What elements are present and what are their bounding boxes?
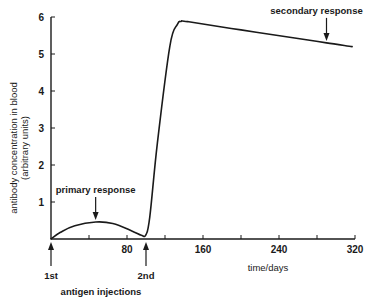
axes [51,17,355,239]
ticks: 80160240320123456 [38,12,363,255]
x-tick-label: 320 [347,244,364,255]
y-axis-subtitle: (arbitrary units) [19,116,30,180]
arrow-up-icon-head [143,242,149,250]
y-tick-label: 3 [38,123,44,134]
x-tick-label: 240 [271,244,288,255]
y-axis-title: antibody concentration in blood [8,82,19,214]
x-tick-label: 160 [195,244,212,255]
arrow-up-icon-head [48,242,54,250]
x-tick-label: 80 [121,244,133,255]
arrow-down-icon-head [324,33,330,41]
injection-label: 2nd [138,270,155,281]
annotation-label: secondary response [270,5,362,16]
injection-group-label: antigen injections [61,286,142,297]
arrow-down-icon-head [93,212,99,220]
y-tick-label: 2 [38,160,44,171]
antibody-response-chart: 80160240320123456 primary responsesecond… [0,0,379,298]
injection-label: 1st [44,270,59,281]
y-tick-label: 5 [38,49,44,60]
y-tick-label: 6 [38,12,44,23]
y-tick-label: 4 [38,86,44,97]
x-axis-title: time/days [248,262,289,273]
y-tick-label: 1 [38,197,44,208]
annotation-label: primary response [56,184,136,195]
